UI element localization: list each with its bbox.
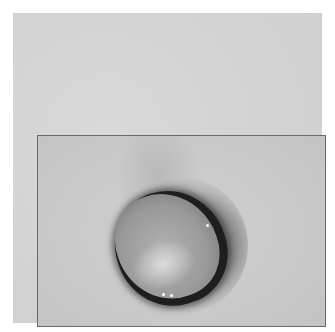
- highlight: [162, 293, 165, 296]
- highlight: [170, 294, 173, 297]
- photo-panel: [13, 13, 322, 323]
- photo-frame: [37, 135, 326, 327]
- highlight: [206, 224, 209, 227]
